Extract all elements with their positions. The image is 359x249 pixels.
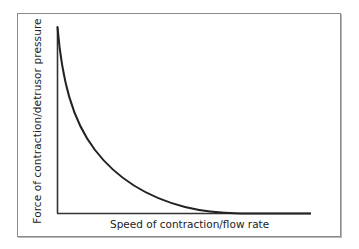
y-axis-label: Force of contraction/detrusor pressure <box>31 18 43 223</box>
x-axis-label: Speed of contraction/flow rate <box>110 218 269 230</box>
plot-area <box>0 0 359 249</box>
force-velocity-curve <box>58 27 312 214</box>
